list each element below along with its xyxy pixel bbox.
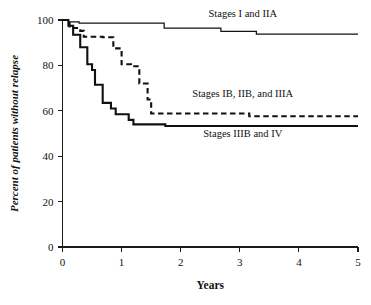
survival-curve-chart: 020406080100 012345 Stages I and IIAStag…: [0, 0, 371, 305]
series-label-1: Stages IB, IIB, and IIIA: [192, 88, 293, 99]
x-axis-title: Years: [197, 279, 225, 291]
x-tick-label: 2: [178, 256, 184, 268]
x-tick-label: 4: [296, 256, 302, 268]
y-tick-label: 60: [43, 105, 55, 117]
figure-container: 020406080100 012345 Stages I and IIAStag…: [0, 0, 371, 305]
x-tick-label: 3: [237, 256, 243, 268]
x-tick-label: 5: [355, 256, 361, 268]
curve-series-0: [63, 20, 359, 34]
y-tick-label: 20: [43, 196, 55, 208]
y-axis-title: Percent of patients without relapse: [8, 55, 20, 212]
series-label-0: Stages I and IIA: [208, 8, 277, 19]
y-tick-label: 0: [48, 241, 54, 253]
y-tick-label: 40: [43, 150, 55, 162]
series-annotations: Stages I and IIAStages IB, IIB, and IIIA…: [192, 8, 293, 139]
y-axis-ticks: 020406080100: [37, 14, 63, 253]
series-label-2: Stages IIIB and IV: [203, 128, 282, 139]
data-curves: [63, 20, 359, 126]
x-axis-ticks: 012345: [60, 247, 362, 268]
y-tick-label: 80: [43, 59, 55, 71]
y-tick-label: 100: [37, 14, 54, 26]
x-tick-label: 1: [119, 256, 125, 268]
curve-series-2: [63, 20, 359, 126]
x-tick-label: 0: [60, 256, 66, 268]
